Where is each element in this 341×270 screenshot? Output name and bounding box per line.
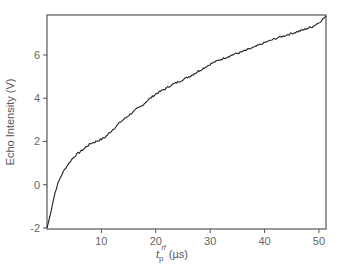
data-series-line: [47, 16, 326, 228]
x-tick-label: 30: [204, 235, 216, 247]
y-axis-label: Echo Intensity (V): [4, 79, 16, 166]
x-label-sub: p: [159, 254, 164, 263]
x-tick-label: 10: [95, 235, 107, 247]
y-tick-label: -2: [30, 222, 40, 234]
x-tick-label: 20: [150, 235, 162, 247]
y-tick-label: 2: [34, 135, 40, 147]
y-axis-ticks: -20246: [30, 49, 47, 234]
x-label-unit: (µs): [169, 248, 188, 260]
x-tick-label: 50: [313, 235, 325, 247]
plot-frame: [47, 15, 326, 229]
x-axis-ticks: 1020304050: [95, 229, 325, 247]
line-chart: 1020304050 -20246 Echo Intensity (V) tpr…: [0, 0, 341, 270]
y-tick-label: 6: [34, 49, 40, 61]
x-axis-label: tprf(µs): [156, 244, 188, 263]
x-label-sup: rf: [162, 244, 167, 251]
y-tick-label: 4: [34, 92, 40, 104]
y-tick-label: 0: [34, 179, 40, 191]
x-tick-label: 40: [258, 235, 270, 247]
